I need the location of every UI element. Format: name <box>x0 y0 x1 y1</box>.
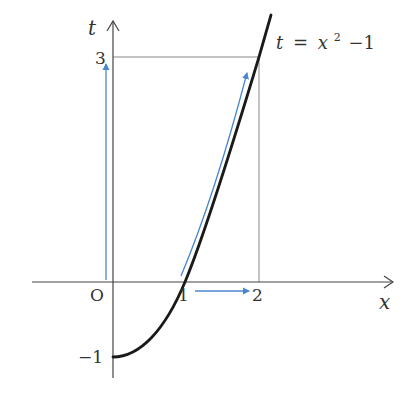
tick-label-x2: 2 <box>252 285 263 305</box>
equation-base: x <box>318 32 328 53</box>
t-axis <box>107 21 119 378</box>
equation-exponent: 2 <box>334 31 341 44</box>
equation-rest: −1 <box>348 32 375 53</box>
equation-label: t = x 2 −1 <box>276 24 375 53</box>
tick-label-x1: 1 <box>178 285 189 305</box>
t-axis-label: t <box>88 16 97 40</box>
guide-lines <box>113 57 259 282</box>
tick-label-t3: 3 <box>95 48 106 68</box>
tick-label-tneg1: −1 <box>78 347 103 367</box>
equation-equals: = <box>293 32 308 53</box>
curved-arrow <box>181 73 247 276</box>
x-axis-label: x <box>379 290 390 314</box>
equation-lhs: t <box>276 32 284 53</box>
origin-label: O <box>90 285 104 305</box>
function-graph: t x O 1 2 3 −1 t = x 2 −1 <box>0 0 413 402</box>
mapping-arrows <box>106 64 249 291</box>
x-axis <box>32 276 393 288</box>
parabola-curve <box>113 15 271 357</box>
